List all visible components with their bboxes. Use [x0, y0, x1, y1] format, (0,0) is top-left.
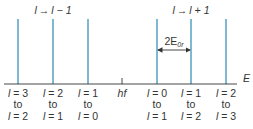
transition-to-label: l = 0	[78, 110, 98, 122]
transition-to-word: to	[84, 98, 93, 110]
transition-to-word: to	[49, 98, 58, 110]
transition-to-word: to	[153, 98, 162, 110]
transition-to-label: l = 1	[147, 110, 167, 122]
hf-label: hf	[118, 87, 128, 99]
spectral-lines	[18, 19, 226, 84]
axis-label-e: E	[243, 72, 251, 84]
transition-to-word: to	[222, 98, 231, 110]
transition-to-label: l = 2	[8, 110, 28, 122]
rotational-spectrum-diagram: l→l − 1 l→l + 1 E hf 2E0r l = 3tol = 2l …	[0, 0, 253, 129]
transition-to-word: to	[14, 98, 23, 110]
header-l-to-l-minus-1: l→l − 1	[35, 4, 72, 16]
spacing-label: 2E0r	[164, 35, 184, 48]
header-l-to-l-plus-1: l→l + 1	[173, 4, 210, 16]
transition-to-label: l = 3	[216, 110, 236, 122]
transition-to-label: l = 1	[43, 110, 63, 122]
transition-to-label: l = 2	[181, 110, 201, 122]
transition-to-word: to	[187, 98, 196, 110]
